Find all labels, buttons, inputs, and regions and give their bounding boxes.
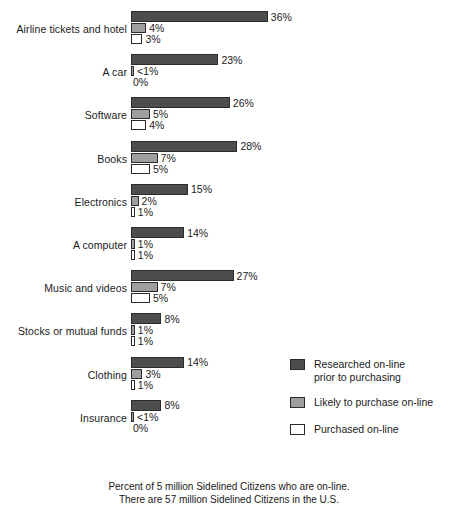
category-label: Music and videos [0, 282, 127, 294]
legend-swatch-dark-icon [290, 359, 305, 370]
bar-segment [131, 313, 161, 324]
bar-segment [131, 196, 139, 206]
chart-row: Airline tickets and hotel36%4%3% [0, 11, 458, 54]
bar-segment [131, 270, 234, 281]
bar-value-label: 1% [138, 336, 153, 347]
legend-label-researched: Researched on-line prior to purchasing [314, 358, 458, 383]
legend-label-likely: Likely to purchase on-line [314, 396, 458, 409]
category-label: Stocks or mutual funds [0, 325, 127, 337]
legend-item-researched: Researched on-line prior to purchasing [290, 358, 458, 383]
chart-row: Software26%5%4% [0, 97, 458, 140]
category-label: Software [0, 109, 127, 121]
bar-value-label: 0% [133, 422, 148, 433]
bar-segment [131, 336, 135, 346]
bar-value-label: 8% [164, 400, 179, 411]
category-label: A computer [0, 239, 127, 251]
bar-chart: Airline tickets and hotel36%4%3%A car23%… [0, 0, 458, 519]
bar-value-label: 15% [191, 184, 212, 195]
bar-segment [131, 97, 230, 108]
bar-segment [131, 380, 135, 390]
chart-row: A car23%<1%0% [0, 54, 458, 97]
bar-segment [131, 227, 184, 238]
bar-segment [131, 109, 150, 119]
bar-segment [131, 11, 268, 22]
bar-segment [131, 120, 146, 130]
bar-segment [131, 34, 142, 44]
bar-segment [131, 400, 161, 411]
chart-row: A computer14%1%1% [0, 227, 458, 270]
bar-value-label: 27% [237, 270, 258, 281]
legend-swatch-medium-icon [290, 397, 305, 408]
bar-value-label: 4% [149, 120, 164, 131]
category-label: Clothing [0, 369, 127, 381]
bar-segment [131, 54, 218, 65]
category-label: Electronics [0, 196, 127, 208]
bar-segment [131, 282, 158, 292]
bar-segment [131, 164, 150, 174]
bar-value-label: 14% [187, 227, 208, 238]
legend-label-purchased: Purchased on-line [314, 423, 458, 436]
bar-segment [131, 250, 135, 260]
bar-value-label: 26% [233, 97, 254, 108]
bar-segment [131, 66, 134, 76]
chart-row: Books28%7%5% [0, 141, 458, 184]
legend-item-likely: Likely to purchase on-line [290, 396, 458, 410]
bar-segment [131, 184, 188, 195]
bar-value-label: 3% [145, 34, 160, 45]
legend-swatch-white-icon [290, 424, 305, 435]
bar-value-label: 36% [271, 11, 292, 22]
bar-segment [131, 141, 237, 152]
bar-value-label: 0% [133, 77, 148, 88]
bar-value-label: 1% [138, 206, 153, 217]
bar-segment [131, 357, 184, 368]
chart-row: Stocks or mutual funds8%1%1% [0, 313, 458, 356]
category-label: Airline tickets and hotel [0, 23, 127, 35]
bar-value-label: 23% [221, 54, 242, 65]
chart-row: Music and videos27%7%5% [0, 270, 458, 313]
category-label: Insurance [0, 412, 127, 424]
bar-segment [131, 369, 142, 379]
bar-value-label: 1% [138, 250, 153, 261]
bar-segment [131, 239, 135, 249]
bar-segment [131, 207, 135, 217]
chart-row: Electronics15%2%1% [0, 184, 458, 227]
chart-caption: Percent of 5 million Sidelined Citizens … [0, 481, 458, 506]
bar-segment [131, 412, 134, 422]
bar-segment [131, 293, 150, 303]
bar-value-label: 5% [153, 293, 168, 304]
legend-item-purchased: Purchased on-line [290, 423, 458, 437]
bar-value-label: 1% [138, 379, 153, 390]
bar-segment [131, 23, 146, 33]
bar-value-label: 8% [164, 313, 179, 324]
bar-segment [131, 325, 135, 335]
bar-value-label: 5% [153, 163, 168, 174]
category-label: A car [0, 66, 127, 78]
bar-value-label: 14% [187, 357, 208, 368]
chart-legend: Researched on-line prior to purchasing L… [290, 358, 458, 450]
bar-segment [131, 153, 158, 163]
bar-value-label: 28% [240, 141, 261, 152]
category-label: Books [0, 153, 127, 165]
